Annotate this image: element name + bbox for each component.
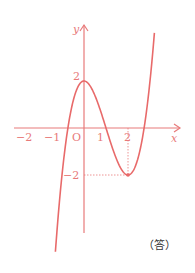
origin-label: O [72,131,81,144]
x-tick-2: 2 [124,131,131,144]
answer-label: （答） [143,236,176,252]
curve [55,33,154,252]
local-min-point [126,173,130,177]
x-tick-neg2: −2 [16,131,32,144]
y-axis-label: y [72,23,80,36]
y-tick-2: 2 [73,70,80,83]
y-tick-neg2: −2 [63,169,79,182]
x-tick-neg1: −1 [44,131,60,144]
x-tick-1: 1 [97,131,104,144]
x-axis-label: x [171,132,178,145]
cubic-function-graph: y x 2 −2 −2 −1 O 1 2 [0,0,195,273]
